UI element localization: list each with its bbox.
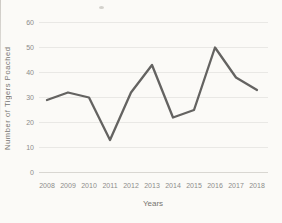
x-tick-label: 2015 bbox=[186, 182, 202, 189]
x-tick-label: 2010 bbox=[81, 182, 97, 189]
x-tick-label: 2018 bbox=[249, 182, 265, 189]
data-line bbox=[47, 48, 257, 141]
y-axis-title: Number of Tigers Poached bbox=[3, 24, 12, 172]
y-tick-label: 10 bbox=[26, 144, 34, 151]
y-tick-label: 60 bbox=[26, 19, 34, 26]
line-chart-canvas: 0102030405060200820092010201120122013201… bbox=[0, 0, 282, 223]
x-tick-label: 2012 bbox=[123, 182, 139, 189]
x-axis-title: Years bbox=[40, 199, 266, 208]
x-tick-label: 2016 bbox=[207, 182, 223, 189]
x-tick-label: 2009 bbox=[60, 182, 76, 189]
y-tick-label: 40 bbox=[26, 69, 34, 76]
poaching-line-chart: 0102030405060200820092010201120122013201… bbox=[0, 0, 282, 223]
x-tick-label: 2011 bbox=[102, 182, 117, 189]
y-tick-label: 50 bbox=[26, 44, 34, 51]
x-tick-label: 2017 bbox=[228, 182, 244, 189]
y-tick-label: 20 bbox=[26, 119, 34, 126]
x-tick-label: 2008 bbox=[39, 182, 55, 189]
x-tick-label: 2013 bbox=[144, 182, 160, 189]
y-tick-label: 30 bbox=[26, 94, 34, 101]
y-tick-label: 0 bbox=[30, 169, 34, 176]
x-tick-label: 2014 bbox=[165, 182, 181, 189]
